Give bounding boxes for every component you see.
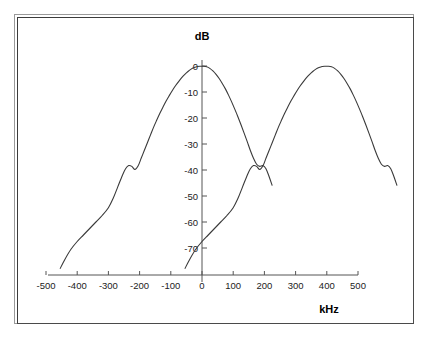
y-axis-ticks	[202, 66, 207, 248]
y-tick-label: -70	[184, 243, 198, 254]
x-tick-label: 400	[319, 280, 335, 291]
x-tick-label: -500	[36, 280, 55, 291]
x-tick-label: 300	[288, 280, 304, 291]
y-axis-tick-labels: 0-10-20-30-40-50-60-70	[184, 61, 198, 254]
x-tick-label: -300	[99, 280, 118, 291]
x-tick-label: 100	[225, 280, 241, 291]
y-tick-label: -40	[184, 165, 198, 176]
y-tick-label: -60	[184, 217, 198, 228]
x-tick-label: 0	[199, 280, 204, 291]
figure-root: -500-400-300-200-1000100200300400500 0-1…	[0, 0, 435, 346]
x-axis-title: kHz	[319, 303, 339, 315]
x-tick-label: -400	[68, 280, 87, 291]
curve-channel-centered-spectrum	[60, 66, 272, 269]
y-tick-label: -10	[184, 87, 198, 98]
x-tick-label: -100	[161, 280, 180, 291]
y-tick-label: -30	[184, 139, 198, 150]
x-tick-label: 200	[256, 280, 272, 291]
x-axis-ticks	[46, 271, 358, 275]
spectrum-plot: -500-400-300-200-1000100200300400500 0-1…	[17, 17, 414, 324]
x-axis-tick-labels: -500-400-300-200-1000100200300400500	[36, 280, 365, 291]
curve-adjacent-channel-spectrum	[185, 66, 397, 269]
x-tick-label: 500	[350, 280, 366, 291]
y-axis-title: dB	[195, 30, 210, 42]
y-tick-label: -50	[184, 191, 198, 202]
x-tick-label: -200	[130, 280, 149, 291]
y-tick-label: -20	[184, 113, 198, 124]
